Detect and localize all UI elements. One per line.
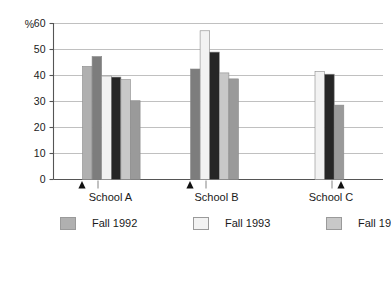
bar bbox=[83, 66, 93, 179]
bar bbox=[131, 101, 141, 180]
legend-label: Fall 1993 bbox=[225, 217, 270, 230]
bar bbox=[334, 105, 344, 179]
bar bbox=[325, 74, 335, 179]
bar bbox=[121, 80, 131, 180]
y-tick-label: 60 bbox=[34, 17, 46, 29]
y-tick-label: 50 bbox=[34, 43, 46, 55]
legend-item[interactable]: Fall 1994 bbox=[326, 214, 391, 232]
legend-swatch bbox=[193, 217, 209, 230]
x-axis-category-label: School C bbox=[309, 191, 354, 203]
y-tick-label: 20 bbox=[34, 121, 46, 133]
category-markers bbox=[78, 181, 344, 189]
y-tick-label: 30 bbox=[34, 95, 46, 107]
legend-label: Fall 1992 bbox=[92, 217, 137, 230]
legend-item[interactable]: Fall 1992 bbox=[60, 214, 193, 232]
y-axis-ticks bbox=[50, 24, 54, 180]
legend-item[interactable]: Fall 1993 bbox=[193, 214, 326, 232]
legend-swatch bbox=[326, 217, 342, 230]
category-marker-triangle bbox=[337, 181, 344, 189]
bar bbox=[315, 72, 325, 180]
y-axis-unit-label: % bbox=[25, 18, 34, 30]
bar bbox=[229, 79, 239, 180]
bar-chart: 0102030405060 % School ASchool BSchool C… bbox=[0, 0, 391, 288]
category-marker-triangle bbox=[186, 181, 193, 189]
bar bbox=[210, 52, 220, 179]
x-axis-labels: School ASchool BSchool C bbox=[89, 191, 354, 203]
y-tick-label: 10 bbox=[34, 147, 46, 159]
chart-legend: Fall 1992Fall 1993Fall 1994Spring 1993Sp… bbox=[60, 214, 360, 232]
y-tick-label: 40 bbox=[34, 69, 46, 81]
bar-series-group bbox=[83, 31, 344, 180]
x-axis-category-label: School A bbox=[89, 191, 133, 203]
bar bbox=[102, 76, 112, 179]
y-tick-label: 0 bbox=[40, 173, 46, 185]
legend-label: Fall 1994 bbox=[358, 217, 391, 230]
bar bbox=[219, 73, 229, 180]
bar bbox=[111, 77, 121, 179]
category-marker-triangle bbox=[78, 181, 85, 189]
x-axis-category-label: School B bbox=[194, 191, 238, 203]
bar bbox=[191, 69, 201, 180]
legend-swatch bbox=[60, 217, 76, 230]
chart-canvas: 0102030405060 % School ASchool BSchool C bbox=[0, 0, 391, 288]
y-axis-labels: 0102030405060 bbox=[34, 17, 46, 185]
bar bbox=[92, 57, 102, 180]
bar bbox=[200, 31, 210, 180]
